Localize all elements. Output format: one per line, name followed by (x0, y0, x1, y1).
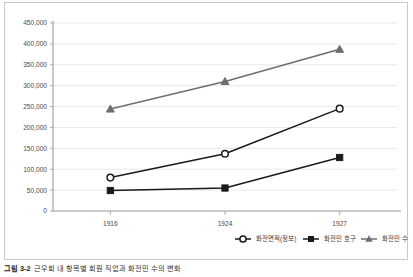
y-axis-tick-label: 50,000 (27, 187, 48, 194)
x-axis-tick-label: 1924 (218, 220, 233, 227)
chart-frame: 450,000400,000350,000300,000250,000200,0… (4, 2, 408, 260)
legend-marker-square (308, 236, 314, 242)
data-point-open-circle (222, 150, 229, 157)
data-point-open-circle (336, 105, 343, 112)
y-axis-tick-label: 200,000 (23, 124, 47, 131)
y-axis-tick-label: 300,000 (23, 82, 47, 89)
data-point-open-circle (107, 174, 114, 181)
y-axis-tick-label: 150,000 (23, 145, 47, 152)
y-axis-tick-label: 100,000 (23, 166, 47, 173)
data-point-square (337, 154, 343, 160)
x-axis-tick-label: 1916 (103, 220, 118, 227)
legend-item-label-1[interactable]: 화전민 호구 (324, 234, 356, 243)
y-axis-tick-label: 450,000 (23, 19, 47, 26)
figure-container: 450,000400,000350,000300,000250,000200,0… (0, 0, 413, 277)
x-axis-tick-label: 1927 (332, 220, 347, 227)
figure-caption: 그림 3-2 근우회 내 항목별 회원 직업과 화전민 수의 변화 (4, 263, 409, 273)
legend-item-label-2[interactable]: 화전민 수 (382, 234, 408, 243)
y-axis-tick-label: 350,000 (23, 61, 47, 68)
data-point-triangle (336, 45, 344, 52)
caption-text: 근우회 내 항목별 회원 직업과 화전민 수의 변화 (34, 264, 181, 273)
y-axis-tick-label: 0 (43, 207, 47, 214)
caption-number: 그림 3-2 (4, 264, 30, 273)
y-axis-tick-label: 250,000 (23, 103, 47, 110)
legend-marker-open-circle (240, 236, 246, 242)
data-point-square (107, 187, 113, 193)
line-chart: 450,000400,000350,000300,000250,000200,0… (5, 3, 409, 261)
legend-item-label-0[interactable]: 화전면적(정보) (256, 234, 296, 243)
y-axis-tick-label: 400,000 (23, 40, 47, 47)
data-point-square (222, 185, 228, 191)
